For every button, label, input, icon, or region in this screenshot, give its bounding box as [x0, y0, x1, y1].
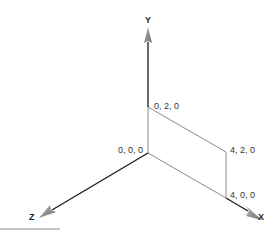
y-arrowhead-icon	[144, 27, 152, 43]
point-label-0-2-0: 0, 2, 0	[154, 102, 179, 111]
point-label-origin: 0, 0, 0	[118, 146, 143, 155]
rectangle-plane	[148, 107, 226, 198]
point-label-4-0-0: 4, 0, 0	[230, 191, 255, 200]
x-axis-label: X	[258, 213, 264, 222]
z-axis-label: Z	[29, 213, 35, 222]
coordinate-diagram	[0, 0, 276, 242]
y-axis	[144, 27, 152, 107]
z-arrowhead-icon	[39, 205, 56, 218]
point-label-4-2-0: 4, 2, 0	[230, 146, 255, 155]
x-axis	[226, 198, 262, 220]
divider-line	[0, 228, 60, 230]
z-axis	[39, 153, 148, 218]
y-axis-label: Y	[145, 16, 151, 25]
